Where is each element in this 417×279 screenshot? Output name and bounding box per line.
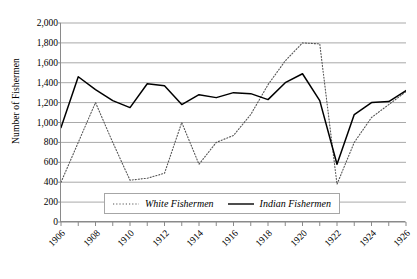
y-axis-tick-label: 600 — [44, 157, 58, 167]
y-axis-tick-label: 1,200 — [37, 98, 58, 108]
y-axis-tick-label: 800 — [44, 137, 58, 147]
legend-label: Indian Fishermen — [260, 198, 331, 209]
series-line-indian-fishermen — [61, 74, 406, 165]
y-axis-tick-label: 1,800 — [37, 38, 58, 48]
y-axis-tick-label: 1,600 — [37, 58, 58, 68]
x-axis-tick-label: 1926 — [405, 215, 417, 236]
y-axis-tick-label: 200 — [44, 197, 58, 207]
legend-swatch-solid-icon — [228, 199, 254, 209]
legend-swatch-dotted-icon — [113, 199, 139, 209]
y-axis-tick-label: 400 — [44, 177, 58, 187]
y-axis-tick-label: 1,000 — [37, 118, 58, 128]
y-axis-tick-label: 2,000 — [37, 18, 58, 28]
chart-figure: Number of Fishermen 02004006008001,0001,… — [0, 0, 417, 279]
y-axis-tick-label: 1,400 — [37, 78, 58, 88]
x-axis-tick-labels: 1906190819101912191419161918192019221924… — [60, 222, 405, 279]
legend-item-indian-fishermen: Indian Fishermen — [228, 198, 331, 209]
legend-item-white-fishermen: White Fishermen — [113, 198, 214, 209]
series-line-white-fishermen — [61, 43, 406, 184]
legend-label: White Fishermen — [145, 198, 214, 209]
chart-legend: White Fishermen Indian Fishermen — [104, 193, 340, 214]
